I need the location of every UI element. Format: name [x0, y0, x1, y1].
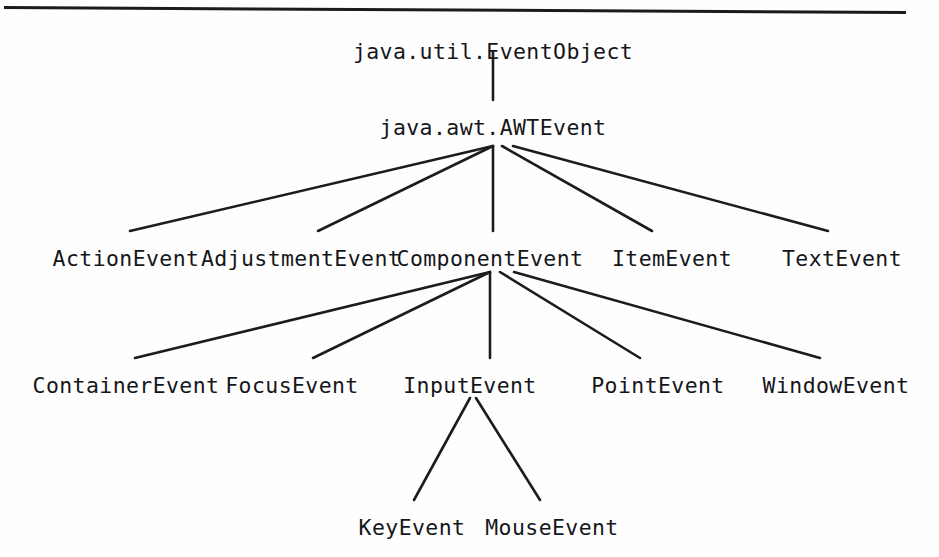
class-hierarchy-diagram: java.util.EventObjectjava.awt.AWTEventAc…	[0, 0, 939, 557]
node-label-componentevent: ComponentEvent	[397, 248, 584, 270]
node-label-awtevent: java.awt.AWTEvent	[380, 117, 607, 139]
node-label-textevent: TextEvent	[782, 248, 902, 270]
node-label-focusevent: FocusEvent	[225, 375, 358, 397]
edge-awtevent-to-itemevent	[502, 146, 652, 231]
node-label-itemevent: ItemEvent	[612, 248, 732, 270]
edge-componentevent-to-focusevent	[313, 272, 490, 358]
inheritance-edges-layer	[0, 0, 939, 557]
edge-awtevent-to-textevent	[513, 146, 828, 231]
node-label-windowevent: WindowEvent	[763, 375, 910, 397]
node-label-actionevent: ActionEvent	[53, 248, 200, 270]
edge-componentevent-to-windowevent	[514, 272, 820, 358]
node-label-pointevent: PointEvent	[591, 375, 724, 397]
node-label-eventobject: java.util.EventObject	[353, 41, 633, 63]
edge-inputevent-to-keyevent	[414, 398, 470, 500]
node-label-containerevent: ContainerEvent	[33, 375, 220, 397]
node-label-mouseevent: MouseEvent	[485, 517, 618, 539]
edge-inputevent-to-mouseevent	[476, 398, 540, 500]
node-label-keyevent: KeyEvent	[359, 517, 466, 539]
edge-awtevent-to-actionevent	[130, 146, 493, 231]
node-label-inputevent: InputEvent	[403, 375, 536, 397]
edge-componentevent-to-containerevent	[135, 272, 490, 358]
node-label-adjustmentevent: AdjustmentEvent	[201, 248, 401, 270]
edge-awtevent-to-adjustmentevent	[318, 146, 493, 231]
edge-componentevent-to-pointevent	[500, 272, 640, 358]
